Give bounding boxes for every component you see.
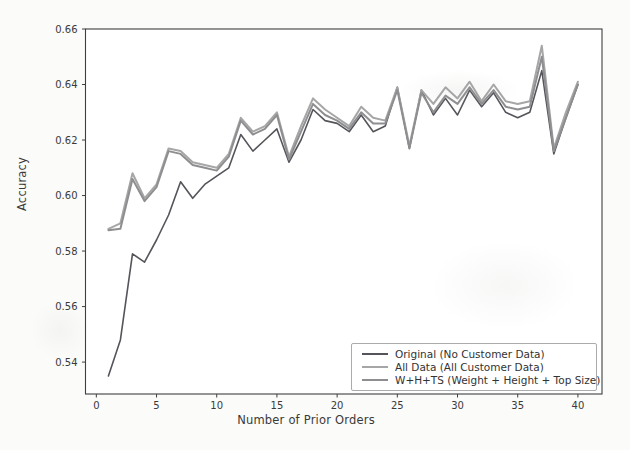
x-tick-label: 20 bbox=[331, 400, 344, 411]
x-tick-label: 15 bbox=[271, 400, 284, 411]
legend-label: All Data (All Customer Data) bbox=[395, 361, 544, 373]
x-tick-label: 25 bbox=[391, 400, 404, 411]
legend-item: All Data (All Customer Data) bbox=[358, 360, 590, 373]
y-tick-label: 0.54 bbox=[55, 357, 77, 368]
x-tick-label: 30 bbox=[451, 400, 464, 411]
y-tick-label: 0.60 bbox=[55, 190, 77, 201]
plot-area bbox=[86, 29, 603, 394]
legend-line-swatch bbox=[362, 353, 388, 355]
x-axis-label: Number of Prior Orders bbox=[0, 413, 612, 427]
figure: 05101520253035400.540.560.580.600.620.64… bbox=[0, 0, 630, 450]
legend-label: Original (No Customer Data) bbox=[395, 348, 545, 360]
x-tick-label: 5 bbox=[153, 400, 159, 411]
y-tick-label: 0.56 bbox=[55, 301, 77, 312]
y-tick-label: 0.58 bbox=[55, 246, 77, 257]
y-axis-label: Accuracy bbox=[15, 157, 29, 211]
y-tick-label: 0.62 bbox=[55, 135, 77, 146]
legend-item: Original (No Customer Data) bbox=[358, 347, 590, 360]
x-tick-label: 10 bbox=[210, 400, 223, 411]
y-tick-label: 0.66 bbox=[55, 24, 77, 35]
legend-item: W+H+TS (Weight + Height + Top Size) bbox=[358, 374, 590, 387]
x-tick-label: 35 bbox=[511, 400, 524, 411]
x-tick-label: 0 bbox=[93, 400, 99, 411]
legend-line-swatch bbox=[362, 379, 388, 381]
legend-label: W+H+TS (Weight + Height + Top Size) bbox=[395, 374, 600, 386]
legend-line-swatch bbox=[362, 366, 388, 368]
y-tick-label: 0.64 bbox=[55, 79, 77, 90]
legend: Original (No Customer Data)All Data (All… bbox=[351, 343, 597, 391]
x-tick-label: 40 bbox=[572, 400, 585, 411]
